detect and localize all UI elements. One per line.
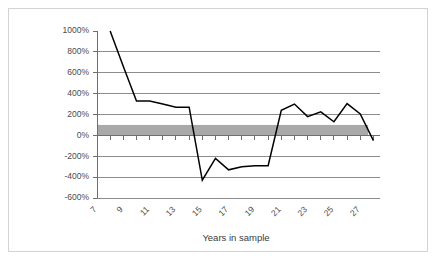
x-tick-label-27: 27 (348, 204, 362, 218)
chart-plot-container: 1000%800%600%400%200%0%-200%-400%-600% 7… (0, 0, 440, 263)
x-tick-label-23: 23 (295, 204, 309, 218)
y-tick-labels-group: 1000%800%600%400%200%0%-200%-400%-600% (63, 25, 90, 202)
y-tick-label--600: -600% (64, 192, 89, 202)
y-tick-label-400: 400% (67, 88, 89, 98)
data-series-line (110, 31, 373, 180)
x-tick-label-7: 7 (88, 204, 99, 215)
x-tick-label-19: 19 (243, 204, 257, 218)
y-axis-group (93, 31, 97, 198)
x-tick-label-9: 9 (114, 204, 125, 215)
x-tick-label-21: 21 (269, 204, 283, 218)
line-chart-svg: 1000%800%600%400%200%0%-200%-400%-600% 7… (0, 0, 440, 263)
x-tick-label-13: 13 (164, 204, 178, 218)
y-tick-label-200: 200% (67, 109, 89, 119)
x-tick-label-17: 17 (216, 204, 230, 218)
y-tick-label-800: 800% (67, 46, 89, 56)
x-axis-title: Years in sample (202, 232, 269, 243)
x-tick-label-11: 11 (138, 204, 152, 218)
x-tick-label-25: 25 (322, 204, 336, 218)
y-tick-label-1000: 1000% (63, 25, 90, 35)
reference-band (97, 125, 368, 135)
y-tick-label--200: -200% (64, 151, 89, 161)
x-tick-labels-group: 79111315171921232527 (88, 204, 362, 218)
y-tick-label-600: 600% (67, 67, 89, 77)
shaded-band-group (97, 125, 368, 135)
y-tick-label--400: -400% (64, 171, 89, 181)
x-minor-ticks-group (97, 135, 373, 140)
x-tick-label-15: 15 (190, 204, 204, 218)
y-tick-label-0: 0% (77, 130, 90, 140)
chart-figure: 1000%800%600%400%200%0%-200%-400%-600% 7… (0, 0, 440, 263)
series-group (110, 31, 373, 180)
